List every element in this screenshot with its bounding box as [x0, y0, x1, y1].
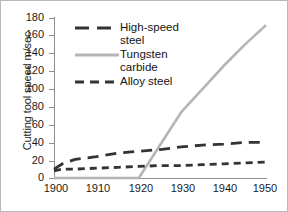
solid-line-swatch-icon: [73, 48, 121, 62]
legend-item-tungsten-carbide: Tungsten carbide: [73, 48, 208, 74]
series-line-alloy-steel: [54, 162, 266, 171]
legend-item-alloy-steel: Alloy steel: [73, 75, 208, 89]
legend-item-high-speed-steel: High-speed steel: [73, 21, 208, 47]
short-dash-swatch-icon: [73, 75, 121, 89]
legend-label-alloy-steel: Alloy steel: [120, 75, 172, 88]
chart-legend: High-speed steel Tungsten carbide Alloy …: [73, 21, 208, 90]
legend-label-high-speed-steel: High-speed steel: [120, 21, 179, 47]
long-dash-swatch-icon: [73, 21, 121, 35]
chart-figure: Cutting tool speed m/sec 180 160 140 120…: [0, 0, 288, 212]
legend-label-tungsten-carbide: Tungsten carbide: [120, 48, 168, 74]
